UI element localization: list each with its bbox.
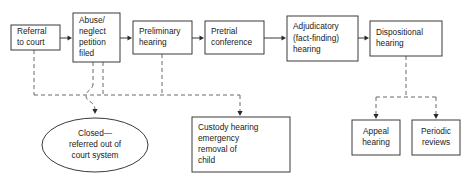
node-label-line: emergency	[198, 133, 240, 143]
dashed-connector-petition-jog-to-ellipse	[86, 84, 95, 110]
node-label-line: to court	[17, 37, 45, 47]
node-label-line: Referral	[17, 26, 47, 36]
node-label-appeal: Appealhearing	[362, 126, 390, 147]
arrowhead-arrow-dispositional	[365, 35, 370, 40]
node-label-line: child	[198, 155, 215, 165]
node-label-line: Custody hearing	[198, 122, 259, 132]
node-label-line: Periodic	[421, 126, 451, 136]
arrowhead-arrow-to-periodic	[433, 114, 438, 119]
node-label-line: conference	[211, 37, 252, 47]
node-appeal[interactable]: Appealhearing	[352, 120, 400, 155]
node-label-line: Preliminary	[139, 26, 181, 36]
node-referral[interactable]: Referralto court	[11, 25, 60, 50]
node-adjudicatory[interactable]: Adjudicatory(fact-finding)hearing	[287, 16, 358, 61]
node-label-line: neglect	[79, 26, 106, 36]
arrowhead-arrow-petition	[68, 35, 73, 40]
node-layer: Referralto courtAbuse/neglectpetitionfil…	[11, 13, 460, 172]
node-label-line: petition	[79, 37, 106, 47]
arrowhead-arrow-adjudicatory	[282, 35, 287, 40]
node-preliminary[interactable]: Preliminaryhearing	[133, 21, 192, 54]
node-label-line: Adjudicatory	[293, 21, 340, 31]
flowchart-canvas: Referralto courtAbuse/neglectpetitionfil…	[0, 0, 470, 187]
node-label-line: filed	[79, 48, 95, 58]
node-label-line: hearing	[139, 37, 167, 47]
node-label-line: (fact-finding)	[293, 33, 339, 43]
node-periodic[interactable]: Periodicreviews	[412, 120, 460, 155]
node-custody[interactable]: Custody hearingemergencyremoval ofchild	[192, 117, 290, 172]
node-label-line: referred out of	[69, 139, 122, 149]
arrowhead-arrow-to-closed	[92, 109, 97, 114]
node-label-line: hearing	[293, 44, 321, 54]
node-label-referral: Referralto court	[17, 26, 47, 47]
node-label-line: hearing	[362, 137, 390, 147]
node-petition[interactable]: Abuse/neglectpetitionfiled	[73, 13, 120, 62]
node-pretrial[interactable]: Pretrialconference	[205, 21, 264, 54]
node-dispositional[interactable]: Dispositionalhearing	[370, 21, 442, 56]
arrowhead-arrow-to-appeal	[373, 114, 378, 119]
arrowhead-arrow-pretrial	[200, 35, 205, 40]
node-label-line: Dispositional	[376, 27, 423, 37]
node-label-line: hearing	[376, 38, 404, 48]
node-label-line: Closed—	[78, 128, 113, 138]
node-closed[interactable]: Closed—referred out ofcourt system	[42, 118, 148, 172]
node-label-line: Pretrial	[211, 26, 237, 36]
node-label-line: court system	[71, 150, 118, 160]
flowchart-svg: Referralto courtAbuse/neglectpetitionfil…	[0, 0, 470, 187]
node-label-periodic: Periodicreviews	[421, 126, 451, 147]
arrowhead-arrow-to-custody	[237, 111, 242, 116]
arrowhead-arrow-preliminary	[128, 35, 133, 40]
node-label-line: Abuse/	[79, 15, 106, 25]
node-label-line: removal of	[198, 144, 237, 154]
node-label-line: Appeal	[363, 126, 389, 136]
node-label-line: reviews	[422, 137, 450, 147]
